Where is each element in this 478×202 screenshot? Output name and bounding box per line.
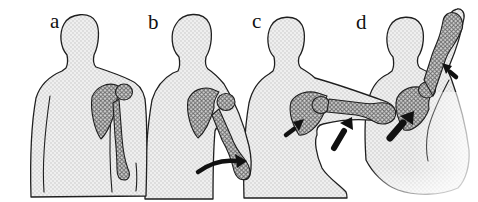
panel-label-d: d <box>356 10 367 34</box>
panel-label-a: a <box>50 9 60 33</box>
halftone-fade-bottom <box>358 168 478 202</box>
panel-label-c: c <box>252 9 261 33</box>
panel-label-b: b <box>148 10 159 34</box>
humerus-elevation-arrow-shaft <box>334 131 344 148</box>
panel-b: b <box>145 10 251 199</box>
panel-a: a <box>31 9 147 197</box>
shoulder-abduction-diagram: d c b a <box>0 0 478 202</box>
humeral-head-b <box>217 94 235 111</box>
humeral-head-a <box>116 84 133 100</box>
humerus-rotation-arrow-shaft <box>450 72 456 77</box>
